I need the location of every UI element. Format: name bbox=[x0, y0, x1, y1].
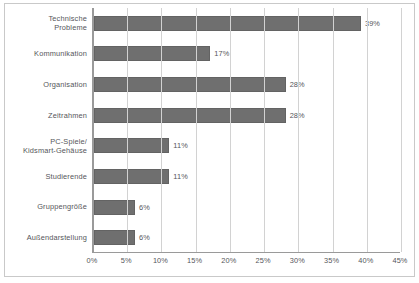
plot-area: Technische Probleme39%Kommunikation17%Or… bbox=[92, 8, 400, 253]
bar-value-label: 6% bbox=[139, 203, 150, 212]
bar-container: 39% bbox=[94, 16, 400, 31]
bar bbox=[94, 77, 286, 92]
gridline-10 bbox=[161, 8, 162, 252]
x-tick-label: 30% bbox=[290, 256, 305, 265]
bar bbox=[94, 200, 135, 215]
bar-value-label: 11% bbox=[173, 172, 188, 181]
bar-container: 11% bbox=[94, 138, 400, 153]
bar-value-label: 17% bbox=[214, 49, 229, 58]
bar-rows: Technische Probleme39%Kommunikation17%Or… bbox=[93, 8, 400, 253]
category-label: Studierende bbox=[0, 172, 87, 181]
bar-value-label: 28% bbox=[290, 80, 305, 89]
category-label: Zeitrahmen bbox=[0, 111, 87, 120]
category-label: Technische Probleme bbox=[0, 14, 87, 32]
bar-container: 28% bbox=[94, 108, 400, 123]
gridline-25 bbox=[264, 8, 265, 252]
bar-value-label: 6% bbox=[139, 233, 150, 242]
category-label: Außendarstellung bbox=[0, 233, 87, 242]
bar-row: Technische Probleme39% bbox=[93, 8, 400, 39]
x-tick-label: 5% bbox=[121, 256, 132, 265]
bar-row: PC-Spiele/ Kidsmart-Gehäuse11% bbox=[93, 131, 400, 162]
bar-row: Gruppengröße6% bbox=[93, 192, 400, 223]
bar-container: 6% bbox=[94, 200, 400, 215]
x-axis-tick-labels: 0%5%10%15%20%25%30%35%40%45% bbox=[92, 256, 400, 272]
x-tick-label: 10% bbox=[153, 256, 168, 265]
bar-row: Studierende11% bbox=[93, 161, 400, 192]
category-label: Gruppengröße bbox=[0, 202, 87, 211]
bar bbox=[94, 16, 361, 31]
bar-row: Außendarstellung6% bbox=[93, 222, 400, 253]
bar bbox=[94, 169, 169, 184]
bar-container: 11% bbox=[94, 169, 400, 184]
gridline-45 bbox=[401, 8, 402, 252]
gridline-40 bbox=[367, 8, 368, 252]
bar-container: 17% bbox=[94, 46, 400, 61]
gridline-5 bbox=[127, 8, 128, 252]
bar-container: 28% bbox=[94, 77, 400, 92]
bar bbox=[94, 46, 210, 61]
bar-row: Kommunikation17% bbox=[93, 39, 400, 70]
x-tick-label: 40% bbox=[358, 256, 373, 265]
category-label: Organisation bbox=[0, 80, 87, 89]
category-label: PC-Spiele/ Kidsmart-Gehäuse bbox=[0, 137, 87, 155]
bar-container: 6% bbox=[94, 230, 400, 245]
bar bbox=[94, 230, 135, 245]
gridline-20 bbox=[230, 8, 231, 252]
x-tick-label: 15% bbox=[187, 256, 202, 265]
bar-chart-figure: Technische Probleme39%Kommunikation17%Or… bbox=[0, 0, 419, 283]
x-tick-label: 25% bbox=[256, 256, 271, 265]
gridline-0 bbox=[93, 8, 94, 252]
bar-value-label: 11% bbox=[173, 141, 188, 150]
bar bbox=[94, 108, 286, 123]
x-tick-label: 45% bbox=[392, 256, 407, 265]
gridline-35 bbox=[333, 8, 334, 252]
x-tick-label: 35% bbox=[324, 256, 339, 265]
bar bbox=[94, 138, 169, 153]
x-tick-label: 20% bbox=[221, 256, 236, 265]
bar-row: Organisation28% bbox=[93, 69, 400, 100]
bar-value-label: 28% bbox=[290, 111, 305, 120]
bar-row: Zeitrahmen28% bbox=[93, 100, 400, 131]
gridline-30 bbox=[298, 8, 299, 252]
gridline-15 bbox=[196, 8, 197, 252]
category-label: Kommunikation bbox=[0, 49, 87, 58]
x-tick-label: 0% bbox=[87, 256, 98, 265]
